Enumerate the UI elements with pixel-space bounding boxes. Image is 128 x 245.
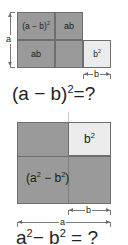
cell-label-b-squared-corner: b2 — [84, 133, 95, 145]
dimension-label-b-bottom: b — [85, 206, 92, 215]
divider-horizontal — [17, 156, 111, 157]
equation-a-minus-b-squared: (a − b)2=? — [12, 84, 95, 103]
cell-label-a-minus-b-squared: (a − b)2 — [22, 22, 50, 31]
cell-ab-top-right: ab — [55, 12, 83, 40]
guide-line-vertical — [68, 112, 69, 122]
cell-label-ab-bottom-left: ab — [31, 50, 41, 59]
dimension-label-b: b — [93, 70, 100, 79]
figure-a-squared-minus-b-squared: b2 (a2 − b2) b a a2− b2 = ? — [0, 112, 128, 245]
dimension-label-a: a — [5, 35, 12, 44]
figure-a-minus-b-squared: a (a − b)2 ab ab b2 b (a − b)2=? — [0, 0, 128, 110]
cell-ab-bottom-left: ab — [17, 40, 55, 68]
dimension-label-a-bottom: a — [59, 218, 66, 227]
cell-b-squared: b2 — [83, 40, 111, 68]
cell-b-squared-corner: b2 — [68, 122, 111, 156]
cell-filler-bottom-middle — [55, 40, 83, 68]
cell-a-minus-b-squared: (a − b)2 — [17, 12, 55, 40]
cell-label-ab-top-right: ab — [64, 22, 74, 31]
equation-a-squared-minus-b-squared: a2− b2 = ? — [16, 228, 98, 245]
cell-label-b-squared: b2 — [93, 50, 101, 59]
cell-label-a-squared-minus-b-squared: (a2 − b2) — [26, 172, 69, 184]
